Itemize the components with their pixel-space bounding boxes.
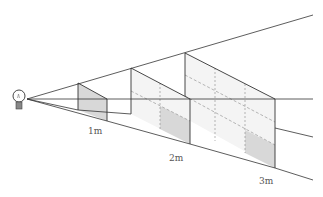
label-2m: 2m [169, 153, 184, 163]
light-bulb-icon [13, 90, 25, 109]
inverse-square-diagram: 1m 2m 3m [0, 0, 323, 197]
label-3m: 3m [259, 176, 274, 186]
label-1m: 1m [88, 126, 103, 136]
frame-3m [185, 53, 275, 168]
frame-2m [131, 68, 190, 144]
frame-1m [78, 83, 107, 121]
